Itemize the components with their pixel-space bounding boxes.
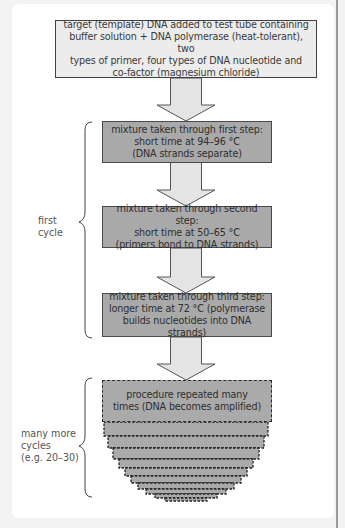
start-box: target (template) DNA added to test tube…	[55, 20, 317, 78]
repeat-layer-8	[146, 489, 226, 494]
repeat-layer-4	[119, 459, 253, 468]
repeat-layer-3	[113, 448, 259, 459]
repeat-layer-1	[104, 422, 268, 436]
repeat-layer-10	[165, 498, 207, 501]
down-arrow-3	[157, 248, 215, 293]
repeat-layer-5	[125, 468, 247, 476]
start-box-text: target (template) DNA added to test tube…	[60, 19, 312, 80]
step-2-text: mixture taken through second step: short…	[106, 203, 268, 252]
repeat-layer-2	[108, 436, 264, 448]
down-arrow-1	[157, 78, 215, 121]
step-2-box: mixture taken through second step: short…	[102, 206, 272, 248]
more-cycles-label: many more cycles (e.g. 20–30)	[21, 428, 79, 464]
repeat-layer-7	[138, 483, 234, 489]
more-cycles-brace	[79, 378, 92, 497]
down-arrow-4	[157, 337, 215, 380]
step-1-box: mixture taken through first step: short …	[102, 121, 272, 163]
first-cycle-label: first cycle	[38, 215, 63, 239]
repeat-box: procedure repeated many times (DNA becom…	[102, 380, 272, 422]
repeat-box-text: procedure repeated many times (DNA becom…	[113, 389, 261, 413]
repeat-layer-6	[131, 476, 241, 483]
first-cycle-brace	[79, 122, 92, 338]
step-3-text: mixture taken through third step: longer…	[106, 291, 268, 340]
down-arrow-2	[157, 162, 215, 206]
step-1-text: mixture taken through first step: short …	[111, 124, 263, 161]
step-3-box: mixture taken through third step: longer…	[102, 293, 272, 337]
